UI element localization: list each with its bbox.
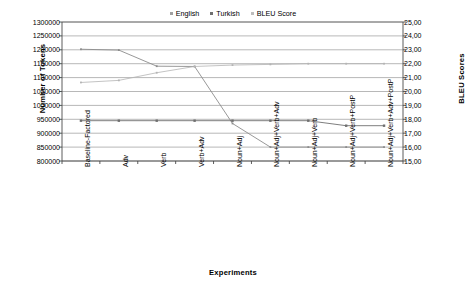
- plot-area: [0, 0, 466, 291]
- y-tick-label-left: 950000: [8, 116, 60, 123]
- y-tick-label-left: 1200000: [8, 46, 60, 53]
- y-tick-label-right: 18,00: [404, 116, 456, 123]
- x-tick-label: Noun+Adj: [236, 136, 243, 167]
- y-tick-label-left: 1300000: [8, 19, 60, 26]
- x-tick-label: Verb+Adv: [198, 136, 205, 167]
- y-tick-label-right: 20,00: [404, 88, 456, 95]
- y-tick-label-right: 19,00: [404, 102, 456, 109]
- x-tick-label: Verb: [160, 153, 167, 167]
- x-tick-label: Noun+Adj+Verb+Adv: [273, 101, 280, 167]
- y-tick-label-right: 17,00: [404, 130, 456, 137]
- y-tick-label-left: 1150000: [8, 60, 60, 67]
- y-tick-label-left: 1250000: [8, 32, 60, 39]
- y-tick-label-left: 1050000: [8, 88, 60, 95]
- y-tick-label-right: 24,00: [404, 32, 456, 39]
- y-tick-label-left: 850000: [8, 144, 60, 151]
- y-tick-label-left: 1100000: [8, 74, 60, 81]
- y-tick-label-left: 1000000: [8, 102, 60, 109]
- x-tick-label: Noun+Adj+Verb+Adv+PostP: [387, 79, 394, 167]
- y-tick-label-left: 900000: [8, 130, 60, 137]
- x-tick-label: Noun+Adj+Verb: [311, 118, 318, 167]
- x-tick-label: Adv: [122, 155, 129, 167]
- y-tick-label-right: 23,00: [404, 46, 456, 53]
- y-tick-label-left: 800000: [8, 158, 60, 165]
- chart-container: English Turkish BLEU Score Number of Tok…: [0, 0, 466, 291]
- y-tick-label-right: 22,00: [404, 60, 456, 67]
- y-tick-label-right: 16,00: [404, 144, 456, 151]
- y-tick-label-right: 15,00: [404, 158, 456, 165]
- y-tick-label-right: 21,00: [404, 74, 456, 81]
- x-tick-label: Noun+Adj+Verb+PostP: [349, 95, 356, 167]
- x-tick-label: Baseline-Factored: [84, 110, 91, 167]
- y-tick-label-right: 25,00: [404, 19, 456, 26]
